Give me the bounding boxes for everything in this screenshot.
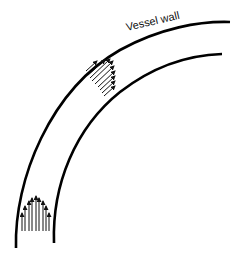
curved-section-velocity-profile bbox=[86, 59, 115, 96]
straight-section-velocity-profile bbox=[22, 196, 49, 231]
vessel-diagram: Vessel wall bbox=[0, 0, 244, 256]
